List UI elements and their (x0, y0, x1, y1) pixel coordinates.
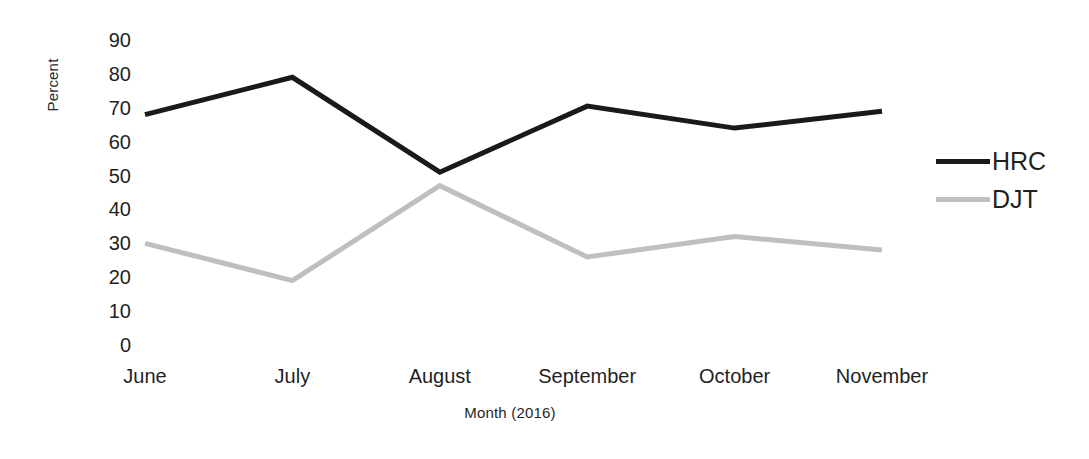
x-axis-tick-labels: JuneJulyAugustSeptemberOctoberNovember (0, 364, 1089, 392)
legend-label-djt: DJT (990, 187, 1038, 212)
x-tick-label: November (792, 364, 972, 388)
legend-swatch-djt (936, 197, 990, 202)
legend-item-djt: DJT (936, 180, 1086, 218)
series-line-hrc (145, 77, 882, 172)
series-line-djt (145, 186, 882, 281)
line-chart: Percent 0102030405060708090 JuneJulyAugu… (0, 0, 1089, 459)
x-axis-title: Month (2016) (0, 404, 1020, 421)
legend-label-hrc: HRC (990, 149, 1046, 174)
legend: HRC DJT (936, 142, 1086, 218)
legend-item-hrc: HRC (936, 142, 1086, 180)
legend-swatch-hrc (936, 159, 990, 164)
